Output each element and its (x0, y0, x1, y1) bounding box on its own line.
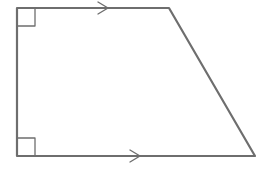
right-trapezoid-diagram (0, 0, 274, 175)
trapezoid-outline (17, 8, 255, 156)
right-angle-marker-top-left (17, 8, 35, 26)
right-angle-marker-bottom-left (17, 138, 35, 156)
